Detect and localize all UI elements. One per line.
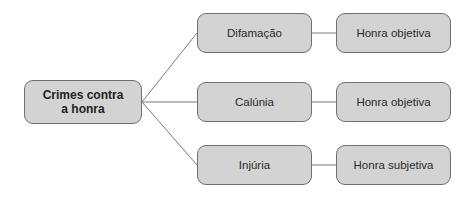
crime-node-injuria: Injúria [197, 145, 312, 185]
object-node-difamacao: Honra objetiva [336, 13, 451, 53]
object-node-injuria: Honra subjetiva [336, 145, 451, 185]
object-label: Honra subjetiva [354, 158, 434, 172]
crime-node-difamacao: Difamação [197, 13, 312, 53]
crime-label: Calúnia [235, 95, 274, 109]
root-node: Crimes contra a honra [24, 80, 142, 124]
root-label-line1: Crimes contra [43, 88, 124, 102]
connector-root-difamacao [142, 33, 197, 102]
crime-label: Difamação [227, 26, 282, 40]
root-label-line2: a honra [61, 102, 104, 116]
object-label: Honra objetiva [356, 26, 430, 40]
object-label: Honra objetiva [356, 95, 430, 109]
crime-node-calunia: Calúnia [197, 82, 312, 122]
object-node-calunia: Honra objetiva [336, 82, 451, 122]
crime-label: Injúria [239, 158, 270, 172]
connector-root-injuria [142, 102, 197, 165]
